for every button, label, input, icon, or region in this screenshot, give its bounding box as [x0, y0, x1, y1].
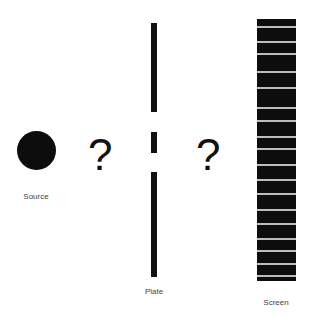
- screen-fringe-line: [257, 71, 296, 73]
- screen-fringe-line: [257, 148, 296, 150]
- screen: [257, 19, 296, 281]
- screen-fringe-line: [257, 107, 296, 109]
- screen-fringe-line: [257, 250, 296, 252]
- screen-fringe-line: [257, 209, 296, 211]
- screen-fringe-line: [257, 179, 296, 181]
- plate-label: Plate: [124, 287, 184, 296]
- screen-label: Screen: [246, 298, 306, 307]
- source-label: Source: [6, 192, 66, 201]
- screen-fringe-line: [257, 263, 296, 265]
- plate-bottom-segment: [151, 172, 157, 277]
- plate-middle-segment: [151, 132, 157, 153]
- screen-fringe-line: [257, 41, 296, 43]
- question-mark-left: ?: [88, 133, 112, 177]
- screen-fringe-line: [257, 120, 296, 122]
- plate-top-segment: [151, 23, 157, 112]
- source-dot: [17, 131, 56, 170]
- screen-fringe-line: [257, 193, 296, 195]
- screen-fringe-line: [257, 164, 296, 166]
- screen-fringe-line: [257, 26, 296, 28]
- screen-fringe-line: [257, 87, 296, 89]
- question-mark-right: ?: [196, 133, 220, 177]
- screen-fringe-line: [257, 238, 296, 240]
- screen-fringe-line: [257, 53, 296, 55]
- screen-fringe-line: [257, 223, 296, 225]
- screen-fringe-line: [257, 136, 296, 138]
- screen-fringe-line: [257, 275, 296, 277]
